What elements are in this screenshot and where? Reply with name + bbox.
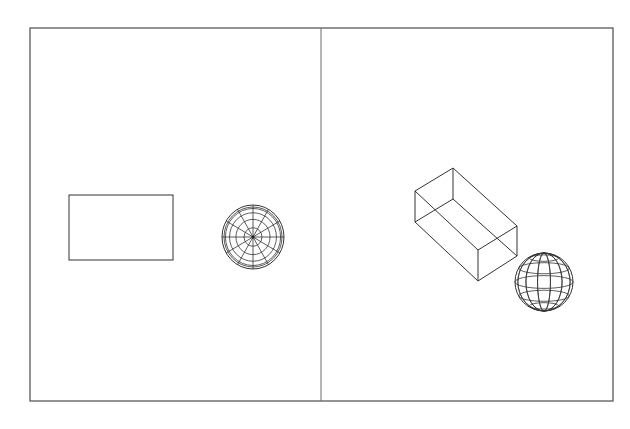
- drawing-canvas: [0, 0, 630, 429]
- box-edge: [453, 199, 517, 256]
- sphere-top-view[interactable]: [222, 205, 284, 269]
- plan-viewport[interactable]: [69, 195, 284, 269]
- sphere-pole: [252, 236, 255, 239]
- sphere-isometric[interactable]: [515, 253, 573, 311]
- box-edge: [415, 199, 453, 222]
- sphere-latitude: [515, 276, 573, 289]
- box-edge: [478, 256, 517, 281]
- sphere-latitude: [519, 263, 569, 274]
- box-edge: [453, 168, 517, 226]
- isometric-viewport[interactable]: [415, 168, 573, 311]
- box-top-view[interactable]: [69, 195, 173, 260]
- box-edge: [415, 222, 478, 281]
- box-edge: [415, 191, 478, 250]
- box-isometric[interactable]: [415, 168, 517, 281]
- sphere-latitude: [519, 290, 569, 301]
- box-edge: [415, 168, 453, 191]
